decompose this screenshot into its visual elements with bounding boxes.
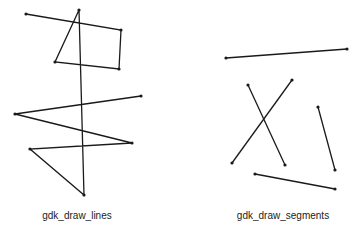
vertex-dot <box>290 78 293 81</box>
vertex-dot <box>333 168 336 171</box>
vertex-dot <box>246 83 249 86</box>
diagram-canvas: gdk_draw_lines gdk_draw_segments <box>0 0 357 233</box>
segment <box>232 80 292 163</box>
vertex-dot <box>283 163 286 166</box>
lines-caption: gdk_draw_lines <box>42 210 112 221</box>
segments-caption: gdk_draw_segments <box>237 210 329 221</box>
vertex-dot <box>333 187 336 190</box>
segment <box>255 174 335 189</box>
segment <box>318 107 335 170</box>
segment <box>226 49 347 58</box>
vertex-dot <box>316 105 319 108</box>
vertex-dot <box>345 47 348 50</box>
segments-drawing <box>0 0 357 233</box>
vertex-dot <box>230 161 233 164</box>
vertex-dot <box>224 56 227 59</box>
vertex-dot <box>253 172 256 175</box>
